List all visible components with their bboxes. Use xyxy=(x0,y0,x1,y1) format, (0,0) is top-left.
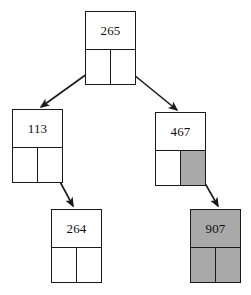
tree-node-265[interactable]: 265 xyxy=(85,11,136,85)
node-key-907: 907 xyxy=(191,210,240,248)
tree-node-907[interactable]: 907 xyxy=(190,209,241,283)
node-key-264: 264 xyxy=(52,210,101,248)
node-key-113: 113 xyxy=(13,110,62,148)
right-pointer-cell[interactable] xyxy=(77,248,102,282)
left-pointer-cell[interactable] xyxy=(86,50,111,84)
node-key-265: 265 xyxy=(86,12,135,50)
tree-node-113[interactable]: 113 xyxy=(12,109,63,183)
left-pointer-cell[interactable] xyxy=(13,148,38,182)
right-pointer-cell[interactable] xyxy=(38,148,63,182)
tree-node-264[interactable]: 264 xyxy=(51,209,102,283)
right-pointer-cell[interactable] xyxy=(181,151,206,185)
left-pointer-cell[interactable] xyxy=(52,248,77,282)
node-key-467: 467 xyxy=(156,113,205,151)
right-pointer-cell[interactable] xyxy=(111,50,136,84)
node-pointer-row xyxy=(156,151,205,185)
tree-node-467[interactable]: 467 xyxy=(155,112,206,186)
right-pointer-cell[interactable] xyxy=(216,248,241,282)
left-pointer-cell[interactable] xyxy=(191,248,216,282)
node-pointer-row xyxy=(191,248,240,282)
node-pointer-row xyxy=(52,248,101,282)
left-pointer-cell[interactable] xyxy=(156,151,181,185)
node-pointer-row xyxy=(13,148,62,182)
node-pointer-row xyxy=(86,50,135,84)
